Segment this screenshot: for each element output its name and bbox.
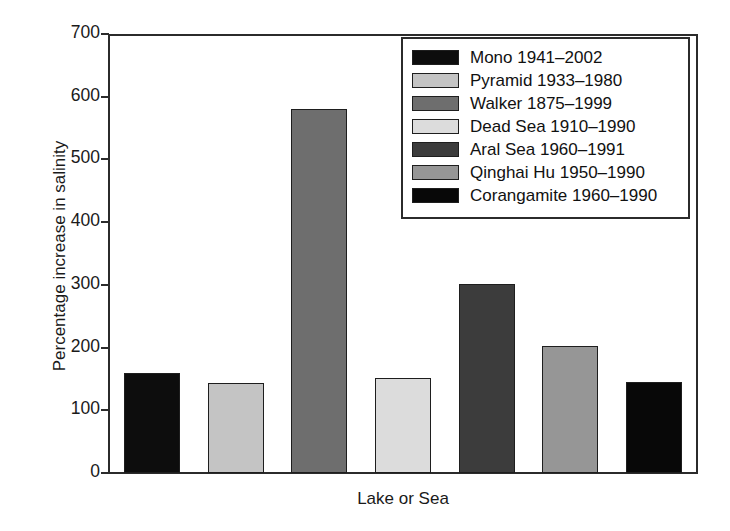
legend-swatch — [412, 73, 459, 88]
y-axis-tick-label: 100 — [54, 401, 100, 415]
y-axis-tick-label: 400 — [54, 213, 100, 227]
legend-label: Dead Sea 1910–1990 — [470, 117, 635, 137]
y-axis-tick-labels: 0100200300400500600700 — [44, 0, 100, 531]
bar — [375, 378, 431, 473]
legend-item: Walker 1875–1999 — [412, 92, 680, 115]
legend-swatch — [412, 50, 459, 65]
legend-swatch — [412, 165, 459, 180]
legend-item: Corangamite 1960–1990 — [412, 184, 680, 207]
bar — [459, 284, 515, 473]
bar — [291, 109, 347, 473]
bar — [208, 383, 264, 473]
y-axis-tick-label: 0 — [54, 464, 100, 478]
bar — [542, 346, 598, 473]
y-axis-tick-label: 200 — [54, 339, 100, 353]
y-axis-tick-label: 500 — [54, 150, 100, 164]
legend-label: Walker 1875–1999 — [470, 94, 612, 114]
legend-label: Mono 1941–2002 — [470, 48, 602, 68]
legend-item: Qinghai Hu 1950–1990 — [412, 161, 680, 184]
y-axis-tick-label: 700 — [54, 25, 100, 39]
x-axis-title: Lake or Sea — [108, 489, 698, 509]
legend-label: Pyramid 1933–1980 — [470, 71, 622, 91]
legend-swatch — [412, 142, 459, 157]
legend-item: Aral Sea 1960–1991 — [412, 138, 680, 161]
bar — [124, 373, 180, 473]
y-axis-tick-label: 600 — [54, 88, 100, 102]
bar — [626, 382, 682, 473]
legend-label: Qinghai Hu 1950–1990 — [470, 163, 645, 183]
legend-item: Dead Sea 1910–1990 — [412, 115, 680, 138]
legend-label: Aral Sea 1960–1991 — [470, 140, 625, 160]
chart-legend: Mono 1941–2002Pyramid 1933–1980Walker 18… — [401, 37, 690, 219]
legend-item: Pyramid 1933–1980 — [412, 69, 680, 92]
legend-label: Corangamite 1960–1990 — [470, 186, 657, 206]
chart-figure: Percentage increase in salinity 01002003… — [0, 0, 730, 531]
legend-item: Mono 1941–2002 — [412, 46, 680, 69]
legend-swatch — [412, 188, 459, 203]
legend-swatch — [412, 119, 459, 134]
y-axis-tick-label: 300 — [54, 276, 100, 290]
legend-swatch — [412, 96, 459, 111]
